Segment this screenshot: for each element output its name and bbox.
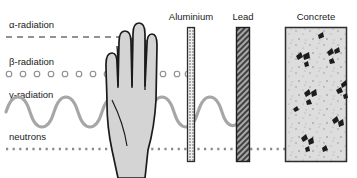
concrete-block <box>286 28 349 162</box>
aluminium-plate <box>188 28 195 162</box>
lead-plate <box>237 28 250 162</box>
hand-shield <box>106 23 157 178</box>
radiation-beams-layer <box>0 0 357 178</box>
beta-beam <box>6 71 191 77</box>
radiation-penetration-diagram: α-radiation β-radiation γ-radiation neut… <box>0 0 357 178</box>
